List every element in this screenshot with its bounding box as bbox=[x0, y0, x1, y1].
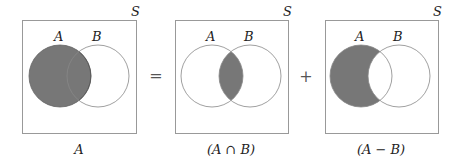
plus-sign: + bbox=[299, 67, 312, 86]
set-a-label: A bbox=[354, 29, 364, 44]
set-a-label: A bbox=[205, 29, 215, 44]
panel-caption: (A − B) bbox=[357, 142, 405, 157]
set-a-label: A bbox=[53, 29, 63, 44]
venn-diagram-equation: S A B A = S A B (A ∩ B) + S A B (A − B) bbox=[0, 0, 464, 168]
set-b-label: B bbox=[91, 29, 102, 44]
panel-difference: S A B (A − B) bbox=[326, 4, 443, 157]
set-b-label: B bbox=[243, 29, 254, 44]
universe-label: S bbox=[433, 4, 442, 19]
universe-label: S bbox=[283, 4, 292, 19]
panel-set-a: S A B A bbox=[23, 4, 141, 157]
universe-label: S bbox=[131, 4, 140, 19]
panel-caption: (A ∩ B) bbox=[207, 142, 255, 157]
panel-intersection: S A B (A ∩ B) bbox=[176, 4, 293, 157]
equals-sign: = bbox=[149, 66, 162, 85]
set-b-label: B bbox=[392, 29, 403, 44]
panel-caption: A bbox=[73, 142, 83, 157]
